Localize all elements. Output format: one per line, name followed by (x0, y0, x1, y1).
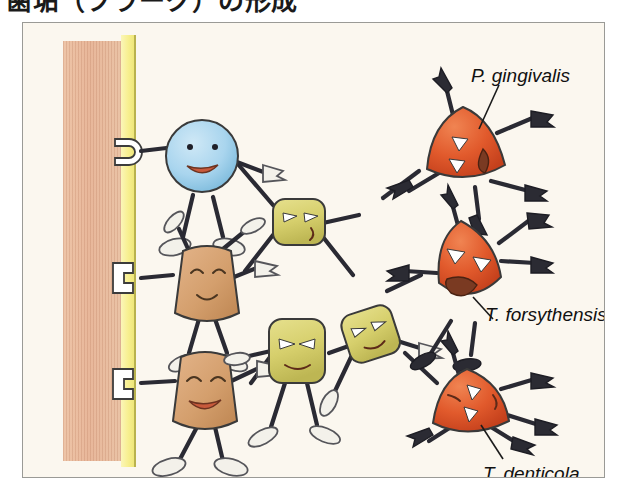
label-t-forsythensis: T. forsythensis (485, 304, 605, 326)
brown-rod-character-upper (161, 208, 278, 375)
illustration-stage: 歯垢（プラーク）の形成 (0, 0, 628, 495)
label-t-denticola: T. denticola (483, 463, 579, 478)
receptor-round (115, 139, 142, 165)
blue-coccus-character (158, 120, 285, 259)
page-title: 歯垢（プラーク）の形成 (6, 0, 298, 16)
biofilm-artwork (23, 23, 604, 477)
page-heading-strip: 歯垢（プラーク）の形成 (0, 0, 628, 16)
receptor-bracket-upper (113, 263, 133, 293)
biofilm-panel-inner: P. gingivalis T. forsythensis T. dentico… (23, 23, 604, 477)
yellow-square-character-top (273, 199, 325, 245)
label-p-gingivalis: P. gingivalis (471, 65, 570, 87)
receptor-bracket-lower (113, 369, 133, 399)
biofilm-panel: P. gingivalis T. forsythensis T. dentico… (22, 22, 605, 478)
yellow-square-character-middle (223, 319, 342, 451)
